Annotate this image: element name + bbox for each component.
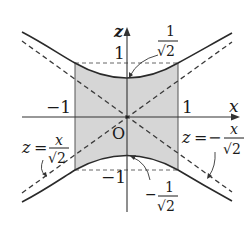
- top-vertex-denominator: √2: [157, 43, 175, 59]
- tick-z-neg1: −1: [101, 167, 126, 187]
- z-axis-label: z: [113, 22, 124, 41]
- asymptote-right-numerator: x: [230, 121, 238, 137]
- bottom-vertex-numerator: 1: [165, 179, 174, 195]
- asymptote-left-lhs: z: [21, 138, 31, 157]
- origin-label: O: [112, 124, 125, 143]
- bottom-vertex-denominator: √2: [157, 198, 175, 214]
- asymptote-left-eq: =: [34, 138, 47, 157]
- origin-point: [125, 115, 128, 118]
- top-vertex-pointer-arrow-icon: [130, 55, 158, 76]
- tick-x-pos1: 1: [182, 97, 193, 117]
- asymptote-right-sign: −: [208, 128, 221, 147]
- tick-z-pos1: 1: [114, 43, 125, 63]
- bottom-vertex-pointer-arrow-icon: [132, 157, 150, 180]
- asymptote-right-eq: =: [194, 128, 207, 147]
- asymptote-left-pointer-arrow-icon: [41, 160, 45, 175]
- bottom-vertex-sign: −: [145, 186, 157, 202]
- annotation-asymptote-left: z = x √2: [21, 132, 69, 177]
- x-axis-label: x: [229, 96, 239, 116]
- z-axis-arrow-icon: [124, 27, 131, 36]
- asymptote-right-lhs: z: [181, 128, 191, 147]
- diagram-canvas: x z O −1 1 1 −1 1 √2 − 1 √2 z = x √2 z =…: [0, 0, 250, 238]
- top-vertex-numerator: 1: [166, 23, 175, 39]
- hyperbola-region-diagram: x z O −1 1 1 −1 1 √2 − 1 √2 z = x √2 z =…: [0, 0, 250, 238]
- asymptote-left-denominator: √2: [48, 150, 66, 166]
- annotation-asymptote-right: z = − x √2: [181, 121, 244, 179]
- tick-x-neg1: −1: [46, 97, 71, 117]
- asymptote-right-denominator: √2: [223, 141, 241, 157]
- asymptote-right-pointer-arrow-icon: [209, 152, 215, 176]
- asymptote-left-numerator: x: [55, 132, 63, 148]
- asymptote-right-arrowhead-icon: [207, 173, 212, 179]
